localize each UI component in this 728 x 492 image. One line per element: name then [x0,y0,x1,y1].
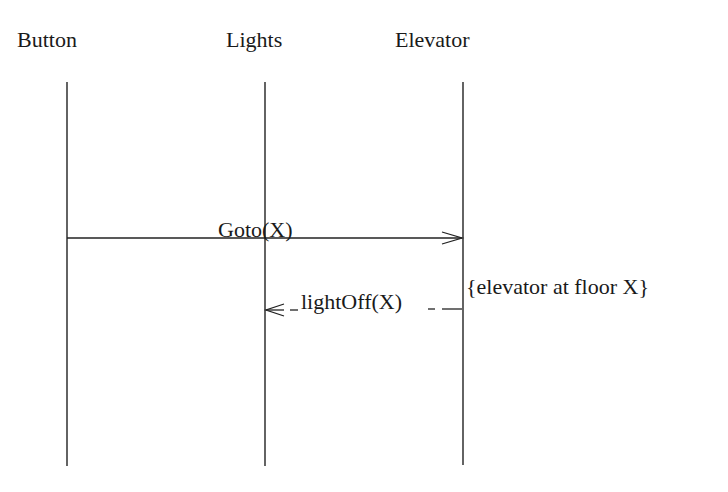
sequence-diagram-canvas [0,0,728,492]
message-lightoff-label: lightOff(X) [301,291,402,313]
message-goto-label: Goto(X) [218,219,293,241]
state-annotation: {elevator at floor X} [466,276,649,298]
